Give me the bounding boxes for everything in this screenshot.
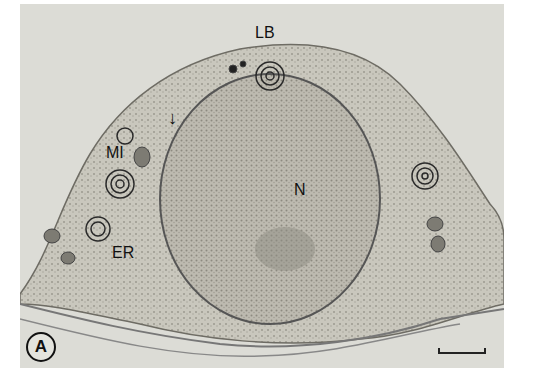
label-endoplasmic-reticulum: ER bbox=[112, 244, 134, 262]
arrow-icon: ↓ bbox=[168, 108, 177, 129]
scale-bar bbox=[438, 348, 486, 354]
label-lamellar-body: LB bbox=[255, 24, 275, 42]
label-nucleus: N bbox=[294, 181, 306, 199]
panel-label: A bbox=[26, 332, 56, 362]
panel-label-text: A bbox=[35, 337, 47, 357]
electron-micrograph: LB MI N ER ↓ A bbox=[20, 4, 504, 368]
cell-illustration bbox=[20, 4, 504, 368]
label-mitochondria: MI bbox=[106, 144, 124, 162]
